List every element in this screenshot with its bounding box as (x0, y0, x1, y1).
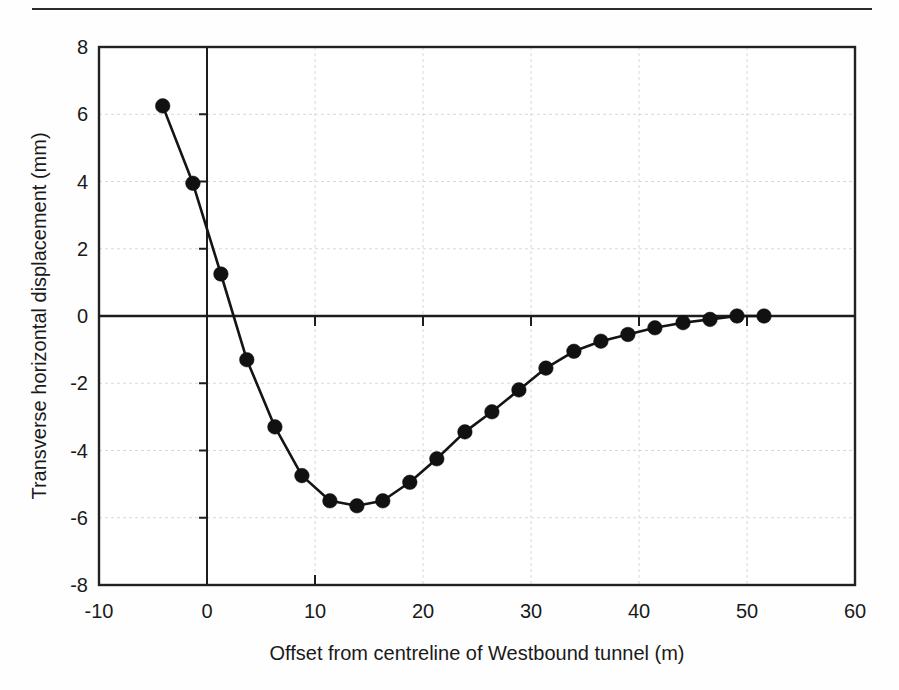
data-point (703, 312, 718, 327)
data-point (676, 315, 691, 330)
y-tick-label: 6 (77, 103, 88, 125)
y-tick-label: -2 (70, 372, 88, 394)
y-tick-label: 2 (77, 238, 88, 260)
data-point (594, 334, 609, 349)
y-tick-label: 8 (77, 36, 88, 58)
data-point (757, 309, 772, 324)
y-axis-title: Transverse horizontal displacement (mm) (28, 132, 50, 499)
y-tick-labels: 8 6 4 2 0 -2 -4 -6 -8 (70, 36, 88, 596)
data-point (295, 468, 310, 483)
data-point (648, 321, 663, 336)
data-point (458, 425, 473, 440)
data-point (430, 452, 445, 467)
data-point (621, 327, 636, 342)
x-tick-label: 10 (304, 600, 326, 622)
y-tick-label: -8 (70, 574, 88, 596)
y-tick-label: -4 (70, 440, 88, 462)
data-point (730, 309, 745, 324)
data-point (155, 99, 170, 114)
data-point (214, 267, 229, 282)
chart-svg: 8 6 4 2 0 -2 -4 -6 -8 -10 0 10 20 30 40 … (0, 0, 899, 690)
x-tick-label: -10 (85, 600, 114, 622)
y-tick-label: 0 (77, 305, 88, 327)
x-tick-label: 50 (736, 600, 758, 622)
data-point (376, 494, 391, 509)
x-tick-labels: -10 0 10 20 30 40 50 60 (85, 600, 867, 622)
chart-figure: 8 6 4 2 0 -2 -4 -6 -8 -10 0 10 20 30 40 … (0, 0, 899, 690)
data-point (268, 420, 283, 435)
x-axis-title: Offset from centreline of Westbound tunn… (269, 642, 684, 664)
figure-page: 8 6 4 2 0 -2 -4 -6 -8 -10 0 10 20 30 40 … (0, 0, 899, 690)
x-tick-label: 40 (628, 600, 650, 622)
x-tick-label: 20 (412, 600, 434, 622)
data-point (403, 475, 418, 490)
data-point (485, 405, 500, 420)
data-point (539, 361, 554, 376)
data-point (350, 499, 365, 514)
data-point (186, 176, 201, 191)
data-point (323, 494, 338, 509)
data-point (567, 344, 582, 359)
y-tick-label: -6 (70, 507, 88, 529)
x-tick-label: 0 (201, 600, 212, 622)
y-tick-label: 4 (77, 171, 88, 193)
x-tick-label: 30 (520, 600, 542, 622)
data-point (240, 352, 255, 367)
x-tick-label: 60 (844, 600, 866, 622)
data-point (512, 383, 527, 398)
